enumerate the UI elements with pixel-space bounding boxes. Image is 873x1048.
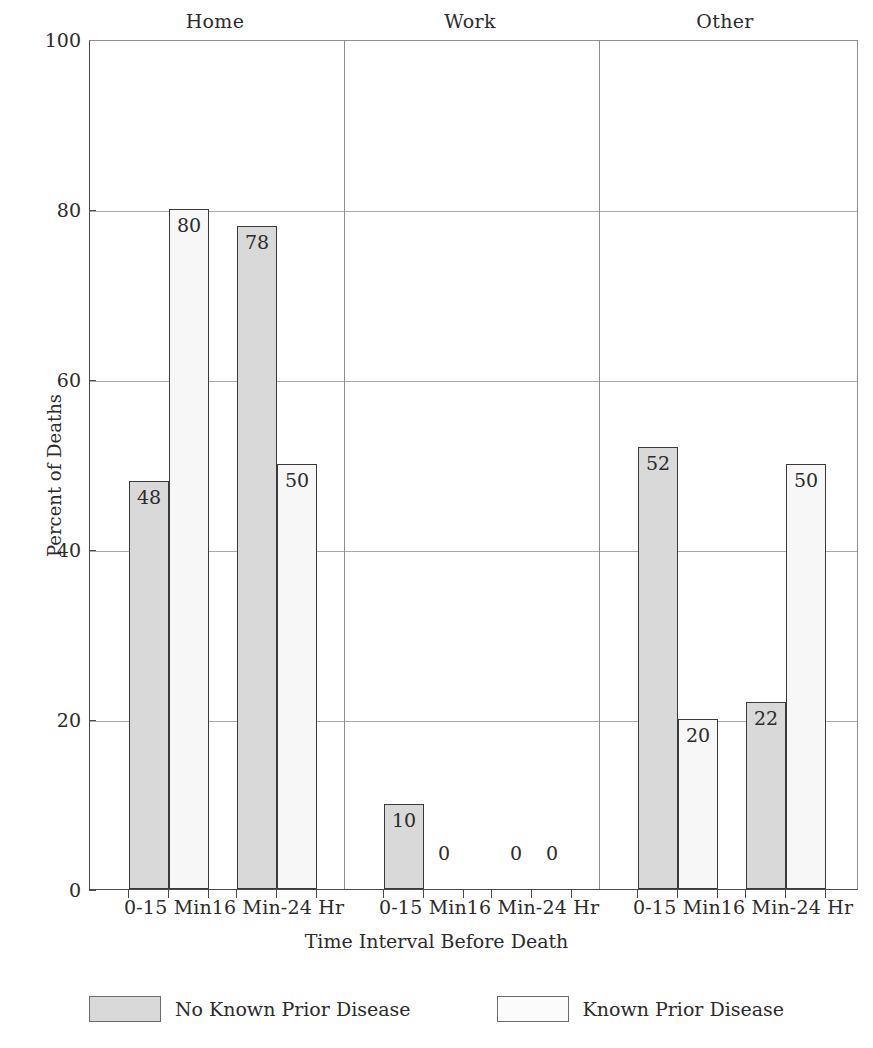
bar-value-work-16min-24hr-no-known-prior-disease: 0 [510,842,522,864]
bar-other-0-15min-no-known-prior-disease[interactable]: 52 [638,447,678,889]
bar-other-16min-24hr-known-prior-disease[interactable]: 50 [786,464,826,889]
chart-figure: Home Work Other 100 80 60 40 20 0 Percen… [0,0,873,1048]
x-tick-label-other-0-15min: 0-15 Min [633,896,721,918]
bar-value: 50 [278,471,316,490]
bar-home-16min-24hr-known-prior-disease[interactable]: 50 [277,464,317,889]
legend-swatch-white-icon [497,996,569,1022]
legend-swatch-gray-icon [89,996,161,1022]
y-tick-100: 100 [45,29,81,51]
legend-label: Known Prior Disease [583,998,785,1020]
legend-item-no-known-prior-disease[interactable]: No Known Prior Disease [89,996,411,1022]
bar-home-16min-24hr-no-known-prior-disease[interactable]: 78 [237,226,277,889]
bar-value-work-16min-24hr-known-prior-disease: 0 [546,842,558,864]
panel-header-work: Work [410,10,530,32]
bar-home-0-15min-no-known-prior-disease[interactable]: 48 [129,481,169,889]
bar-value: 50 [787,471,825,490]
bar-value: 10 [385,811,423,830]
y-axis-title: Percent of Deaths [44,376,65,576]
x-tick-label-other-16min-24hr: 16 Min-24 Hr [721,896,854,918]
y-tick-80: 80 [57,199,81,221]
chart-legend: No Known Prior Disease Known Prior Disea… [0,996,873,1022]
x-axis-title: Time Interval Before Death [0,930,873,952]
panel-header-other: Other [665,10,785,32]
y-tick-20: 20 [57,709,81,731]
x-tick-label-home-0-15min: 0-15 Min [124,896,212,918]
bar-value: 20 [679,726,717,745]
y-tick-0: 0 [69,879,81,901]
x-tick-label-work-16min-24hr: 16 Min-24 Hr [467,896,600,918]
bar-value: 22 [747,709,785,728]
legend-item-known-prior-disease[interactable]: Known Prior Disease [497,996,785,1022]
bar-value: 78 [238,233,276,252]
panel-header-home: Home [155,10,275,32]
legend-label: No Known Prior Disease [175,998,411,1020]
bar-value: 80 [170,216,208,235]
bar-value: 52 [639,454,677,473]
bar-home-0-15min-known-prior-disease[interactable]: 80 [169,209,209,889]
panel-divider-home-work [344,41,345,889]
plot-area: 48 80 78 50 10 0 0 0 52 20 22 50 [89,40,858,890]
y-tickmark-0 [89,890,96,891]
bar-other-0-15min-known-prior-disease[interactable]: 20 [678,719,718,889]
bar-value: 48 [130,488,168,507]
bar-other-16min-24hr-no-known-prior-disease[interactable]: 22 [746,702,786,889]
bar-work-0-15min-no-known-prior-disease[interactable]: 10 [384,804,424,889]
x-tick-label-home-16min-24hr: 16 Min-24 Hr [212,896,345,918]
bar-value-work-0-15min-known-prior-disease: 0 [438,842,450,864]
x-tick-label-work-0-15min: 0-15 Min [379,896,467,918]
panel-divider-work-other [599,41,600,889]
